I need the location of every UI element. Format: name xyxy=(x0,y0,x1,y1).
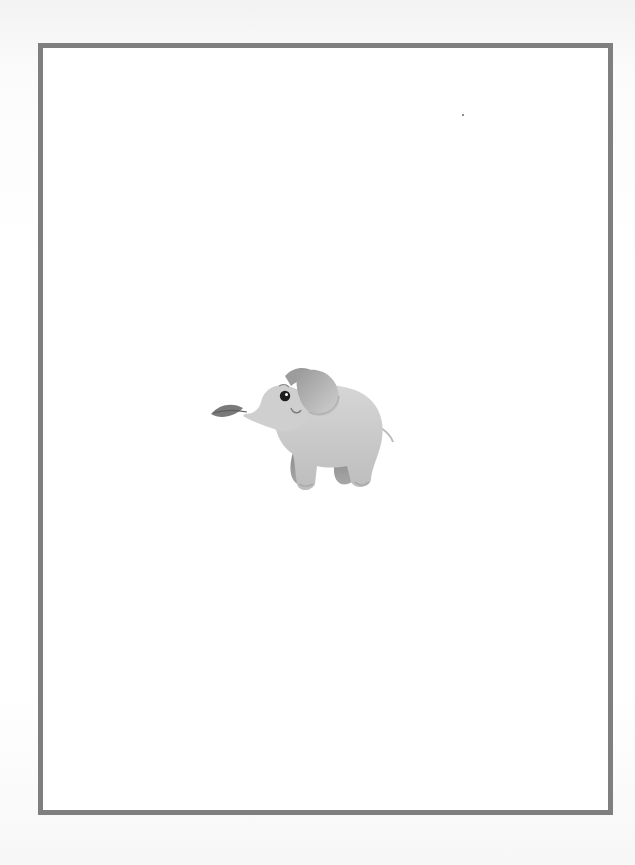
leaf-icon xyxy=(211,405,247,417)
baby-elephant-icon xyxy=(205,362,395,494)
speck-mark xyxy=(462,114,464,116)
page xyxy=(0,0,635,865)
